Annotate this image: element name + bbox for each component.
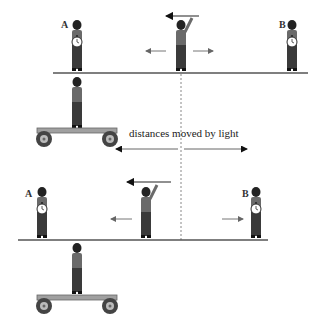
person-emitter <box>141 185 157 238</box>
cart <box>36 295 118 314</box>
cart <box>36 128 118 147</box>
observer-b-label: B <box>242 188 249 199</box>
cart-observer <box>72 77 82 128</box>
person-a <box>37 187 47 238</box>
person-b <box>251 187 261 238</box>
observer-b-label: B <box>279 19 286 30</box>
person-a <box>72 20 82 71</box>
relativity-diagram: A B distances moved by light A <box>0 0 316 335</box>
observer-a-label: A <box>61 19 69 30</box>
bottom-scene: A B <box>18 182 268 314</box>
person-emitter <box>176 18 192 71</box>
observer-a-label: A <box>25 188 33 199</box>
caption-distances: distances moved by light <box>129 127 239 139</box>
person-b <box>287 20 297 71</box>
cart-observer <box>72 243 82 294</box>
